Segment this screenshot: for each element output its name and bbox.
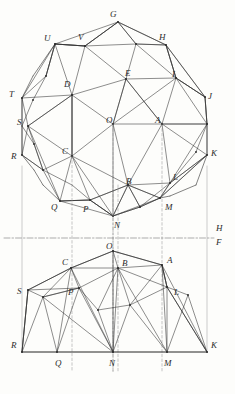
- vertex-dot: [45, 75, 47, 77]
- plan-ring-edge: [85, 22, 118, 46]
- plan-edge: [136, 44, 176, 78]
- vertex-label-q-elevation: Q: [55, 359, 62, 368]
- plan-edge: [126, 78, 176, 79]
- plan-ring-edge: [34, 144, 43, 170]
- vertex-label-b-elevation: B: [122, 259, 128, 268]
- elevation-edge: [98, 305, 130, 310]
- vertex-dot: [78, 287, 80, 289]
- plan-edge: [128, 124, 162, 185]
- vertex-label-o-plan: O: [106, 116, 113, 125]
- plan-ring-edge: [46, 44, 55, 76]
- vertex-dot: [59, 200, 61, 202]
- vertex-label-q-plan: Q: [51, 203, 58, 212]
- vertex-label-e-plan: E: [125, 69, 131, 78]
- vertex-label-r-elevation: R: [11, 341, 17, 350]
- vertex-label-s-plan: S: [17, 118, 22, 127]
- vertex-dot: [71, 94, 73, 96]
- plan-edge: [72, 46, 85, 95]
- elevation-edge: [22, 297, 43, 352]
- plan-edge: [128, 183, 170, 185]
- vertex-label-p-elevation: P: [68, 288, 74, 297]
- vertex-label-n-plan: N: [114, 221, 120, 230]
- vertex-label-c-plan: C: [62, 147, 68, 156]
- vertex-dot: [165, 44, 167, 46]
- plan-edge: [72, 156, 128, 185]
- plan-edge: [162, 124, 170, 183]
- plan-edge: [28, 126, 60, 201]
- vertex-dot: [21, 154, 23, 156]
- vertex-label-n-elevation: N: [109, 359, 115, 368]
- vertex-dot: [129, 304, 131, 306]
- vertex-label-b-plan: B: [126, 177, 132, 186]
- elevation-edge: [43, 297, 113, 352]
- vertex-dot: [112, 351, 114, 353]
- plan-silhouette-edge: [34, 170, 43, 185]
- plan-ring-edge: [55, 44, 85, 46]
- elevation-edge: [113, 268, 118, 352]
- plan-ring-edge: [118, 22, 136, 44]
- vertex-label-f-ground: F: [216, 238, 222, 247]
- plan-ring-edge: [90, 200, 113, 216]
- elevation-edge: [118, 268, 167, 287]
- elevation-edge: [79, 288, 113, 352]
- plan-ring-edge: [176, 78, 205, 97]
- plan-silhouette-edge: [43, 185, 60, 201]
- projection-drawing: GUVHEIDTJOASKRCBLQPMNOCBASPLRKQNMHF: [0, 0, 235, 394]
- plan-edge: [60, 200, 90, 201]
- plan-edge: [176, 78, 207, 124]
- plan-edge: [72, 124, 113, 156]
- plan-edge: [22, 95, 72, 98]
- vertex-dot: [204, 96, 206, 98]
- vertex-label-o-elevation: O: [106, 242, 113, 251]
- plan-silhouette-edge: [22, 76, 33, 98]
- plan-edge: [113, 79, 126, 124]
- vertex-dot: [117, 267, 119, 269]
- plan-edge: [128, 185, 140, 207]
- vertex-dot: [206, 123, 208, 125]
- plan-edge: [162, 78, 176, 124]
- vertex-dot: [84, 45, 86, 47]
- vertex-label-g-plan: G: [110, 10, 117, 19]
- vertex-label-k-elevation: K: [211, 341, 217, 350]
- vertex-label-r-plan: R: [11, 152, 17, 161]
- plan-edge: [72, 79, 126, 95]
- vertex-label-l-plan: L: [173, 173, 178, 182]
- elevation-edge: [71, 268, 113, 352]
- plan-edge: [113, 78, 176, 124]
- vertex-dot: [135, 43, 137, 45]
- elevation-edge: [162, 265, 167, 352]
- plan-edge: [72, 156, 113, 216]
- elevation-edge: [188, 295, 207, 352]
- vertex-dot: [32, 99, 34, 101]
- vertex-dot: [206, 154, 208, 156]
- plan-edge: [28, 95, 72, 126]
- vertex-label-m-plan: M: [165, 203, 173, 212]
- vertex-dot: [187, 294, 189, 296]
- elevation-edge: [162, 265, 207, 352]
- elevation-edge: [79, 268, 118, 288]
- vertex-dot: [166, 351, 168, 353]
- vertex-dot: [56, 351, 58, 353]
- elevation-silhouette-edge: [167, 287, 207, 352]
- vertex-dot: [33, 143, 35, 145]
- projection-svg: [0, 0, 235, 394]
- vertex-label-j-plan: J: [208, 92, 212, 101]
- plan-edge: [55, 22, 118, 44]
- vertex-label-p-plan: P: [83, 205, 89, 214]
- elevation-edge: [28, 290, 43, 297]
- elevation-silhouette-edge: [113, 251, 162, 265]
- elevation-edge: [113, 251, 118, 268]
- vertex-label-v-plan: V: [78, 33, 84, 42]
- elevation-edge: [130, 265, 162, 305]
- vertex-label-t-plan: T: [9, 90, 14, 99]
- vertex-dot: [169, 182, 171, 184]
- plan-silhouette-edge: [33, 44, 55, 76]
- vertex-label-c-elevation: C: [62, 258, 68, 267]
- vertex-dot: [117, 21, 119, 23]
- plan-ring-edge: [196, 124, 207, 152]
- vertex-dot: [89, 199, 91, 201]
- vertex-dot: [42, 296, 44, 298]
- vertex-label-k-plan: K: [211, 149, 217, 158]
- vertex-dot: [159, 197, 161, 199]
- elevation-edge: [98, 310, 113, 352]
